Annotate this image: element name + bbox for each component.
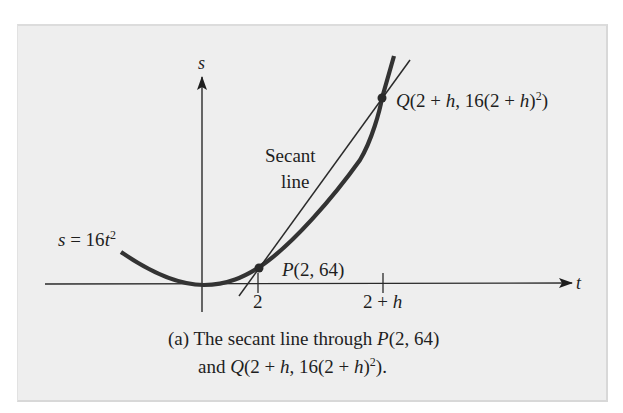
caption-exponent: 2: [370, 355, 376, 369]
caption-text: ): [364, 356, 370, 377]
point-q-h: h: [446, 90, 456, 111]
curve-equation-label: s = 16t2: [58, 230, 116, 249]
secant-label-text-1: Secant: [265, 145, 316, 166]
eq-rhs: = 16: [65, 229, 104, 250]
point-p-marker: [255, 264, 264, 273]
point-q-marker: [378, 94, 387, 103]
tick-label-2: 2: [253, 292, 263, 311]
caption-text: and: [198, 356, 230, 377]
tick-label-2-text: 2: [253, 291, 263, 312]
t-axis-label-text: t: [576, 273, 581, 293]
point-p-coords: (2, 64): [294, 259, 345, 280]
secant-label-line1: Secant: [265, 146, 316, 165]
caption-text: (2, 64): [389, 328, 440, 349]
t-axis-label: t: [576, 274, 581, 292]
caption-text: ).: [376, 356, 387, 377]
point-q-h: h: [520, 90, 530, 111]
point-q-part: (2 +: [410, 90, 446, 111]
caption-text: (2 +: [244, 356, 280, 377]
caption-q: Q: [230, 356, 244, 377]
caption-text: , 16(2 +: [289, 356, 354, 377]
tick-label-2-plus-h: 2 + h: [363, 292, 402, 311]
t-axis: [45, 283, 572, 284]
tick-label-2h-var: h: [393, 291, 403, 312]
caption-h: h: [354, 356, 364, 377]
point-p-name: P: [282, 259, 294, 280]
point-q-exponent: 2: [536, 89, 542, 103]
caption-p: P: [377, 328, 389, 349]
s-axis-label-text: s: [198, 53, 205, 73]
point-q-part: , 16(2 +: [455, 90, 520, 111]
secant-label-text-2: line: [281, 171, 310, 192]
tick-label-2h-pre: 2 +: [363, 291, 393, 312]
caption-text: (a) The secant line through: [168, 328, 377, 349]
figure-caption-line1: (a) The secant line through P(2, 64): [168, 325, 439, 353]
s-axis-label: s: [198, 54, 205, 72]
point-q-name: Q: [396, 90, 410, 111]
parabola-curve: [121, 56, 394, 285]
secant-label-line2: line: [281, 172, 310, 191]
eq-exponent: 2: [110, 228, 116, 242]
figure-caption-line2: and Q(2 + h, 16(2 + h)2).: [198, 353, 387, 383]
point-q-part: ): [529, 90, 535, 111]
point-q-label: Q(2 + h, 16(2 + h)2): [396, 91, 548, 110]
point-p-label: P(2, 64): [282, 260, 344, 279]
point-q-part: ): [542, 90, 548, 111]
